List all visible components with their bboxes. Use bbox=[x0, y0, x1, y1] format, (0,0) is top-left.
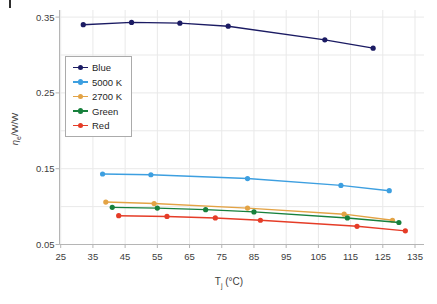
x-tick-label: 45 bbox=[120, 251, 131, 262]
legend-marker-icon bbox=[73, 122, 88, 129]
data-point bbox=[387, 188, 392, 193]
data-point bbox=[258, 218, 263, 223]
x-tick-label: 55 bbox=[152, 251, 163, 262]
legend-item-label: 2700 K bbox=[92, 91, 122, 102]
data-point bbox=[396, 220, 401, 225]
x-tick-label: 115 bbox=[343, 251, 358, 262]
legend-item-label: Green bbox=[92, 106, 118, 117]
legend-item-label: Red bbox=[92, 120, 109, 131]
chart-figure: 25354555657585951051151251350.050.150.25… bbox=[0, 0, 437, 304]
data-point bbox=[245, 206, 250, 211]
data-point bbox=[203, 207, 208, 212]
y-axis-label-suffix: /W/W bbox=[9, 113, 20, 136]
data-point bbox=[81, 22, 86, 27]
data-point bbox=[164, 214, 169, 219]
legend: Blue5000 K2700 KGreenRed bbox=[65, 56, 132, 137]
x-tick-label: 105 bbox=[310, 251, 326, 262]
x-tick-label: 35 bbox=[88, 251, 99, 262]
x-tick-label: 85 bbox=[249, 251, 260, 262]
series-line-red bbox=[119, 216, 406, 231]
legend-item-blue: Blue bbox=[73, 62, 122, 73]
data-point bbox=[213, 215, 218, 220]
data-point bbox=[371, 46, 376, 51]
x-tick-label: 125 bbox=[375, 251, 391, 262]
data-point bbox=[177, 21, 182, 26]
x-axis-label: Tj (°C) bbox=[189, 276, 269, 289]
data-point bbox=[110, 205, 115, 210]
x-tick-label: 25 bbox=[55, 251, 66, 262]
x-tick-label: 75 bbox=[216, 251, 227, 262]
data-point bbox=[345, 215, 350, 220]
data-point bbox=[152, 201, 157, 206]
data-point bbox=[100, 171, 105, 176]
data-point bbox=[148, 172, 153, 177]
x-tick-label: 65 bbox=[184, 251, 195, 262]
data-point bbox=[129, 20, 134, 25]
legend-item-red: Red bbox=[73, 120, 122, 131]
legend-marker-icon bbox=[73, 64, 88, 71]
y-axis-label: ηe/W/W bbox=[9, 99, 23, 159]
data-point bbox=[354, 224, 359, 229]
x-axis-label-suffix: (°C) bbox=[223, 276, 244, 287]
legend-item-label: 5000 K bbox=[92, 77, 122, 88]
data-point bbox=[251, 209, 256, 214]
legend-item-label: Blue bbox=[92, 62, 111, 73]
y-tick-label: 0.35 bbox=[36, 12, 55, 23]
y-tick-label: 0.15 bbox=[36, 163, 55, 174]
legend-item-5000-k: 5000 K bbox=[73, 77, 122, 88]
legend-item-2700-k: 2700 K bbox=[73, 91, 122, 102]
data-point bbox=[245, 176, 250, 181]
data-point bbox=[322, 37, 327, 42]
data-point bbox=[338, 183, 343, 188]
eta-symbol: η bbox=[9, 140, 20, 145]
data-point bbox=[226, 24, 231, 29]
data-point bbox=[103, 199, 108, 204]
legend-marker-icon bbox=[73, 79, 88, 86]
series-line-5000-k bbox=[103, 174, 390, 191]
legend-marker-icon bbox=[73, 93, 88, 100]
plot-area: 25354555657585951051151251350.050.150.25… bbox=[0, 0, 437, 304]
x-tick-label: 95 bbox=[281, 251, 292, 262]
x-tick-label: 135 bbox=[407, 251, 423, 262]
data-point bbox=[403, 228, 408, 233]
data-point bbox=[116, 213, 121, 218]
legend-item-green: Green bbox=[73, 106, 122, 117]
y-axis-label-subscript: e bbox=[15, 136, 22, 140]
y-tick-label: 0.25 bbox=[36, 87, 55, 98]
legend-marker-icon bbox=[73, 108, 88, 115]
data-point bbox=[155, 206, 160, 211]
y-tick-label: 0.05 bbox=[36, 239, 55, 250]
